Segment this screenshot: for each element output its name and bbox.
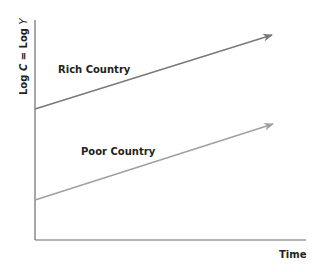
growth-diagram: Rich Country Poor Country Time Log C = L… [0,0,321,272]
rich-country-label: Rich Country [58,64,131,75]
x-axis-label: Time [279,249,307,260]
y-axis-label: Log C = Log Y [18,18,29,95]
poor-country-line [35,124,273,200]
poor-country-label: Poor Country [81,146,156,157]
